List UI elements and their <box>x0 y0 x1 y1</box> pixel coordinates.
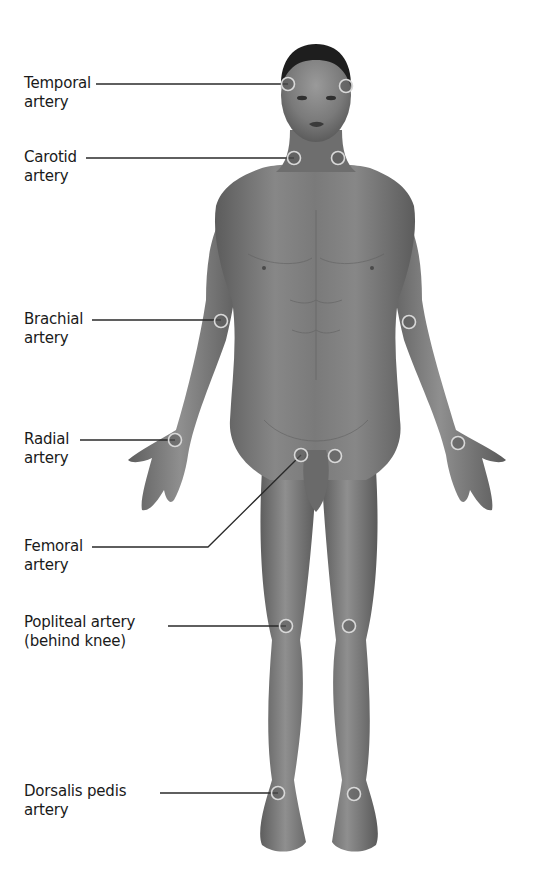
label-line: artery <box>24 801 126 820</box>
label-line: Brachial <box>24 310 83 329</box>
label-temporal-artery: Temporal artery <box>24 74 91 112</box>
pulse-point-marker-radial-right <box>169 434 182 447</box>
pulse-point-marker-femoral-left <box>329 450 342 463</box>
label-line: Popliteal artery <box>24 613 135 632</box>
pulse-point-marker-femoral-right <box>295 449 308 462</box>
label-radial-artery: Radial artery <box>24 430 69 468</box>
label-carotid-artery: Carotid artery <box>24 148 77 186</box>
label-dorsalis-pedis-artery: Dorsalis pedis artery <box>24 782 126 820</box>
label-popliteal-artery: Popliteal artery (behind knee) <box>24 613 135 651</box>
label-line: artery <box>24 449 69 468</box>
pulse-point-marker-popliteal-left <box>343 620 356 633</box>
head <box>281 44 351 142</box>
label-line: Temporal <box>24 74 91 93</box>
pulse-point-marker-temporal-right <box>282 78 295 91</box>
label-femoral-artery: Femoral artery <box>24 537 83 575</box>
pulse-point-marker-brachial-left <box>403 316 416 329</box>
pulse-point-marker-temporal-left <box>340 80 353 93</box>
label-line: Carotid <box>24 148 77 167</box>
label-brachial-artery: Brachial artery <box>24 310 83 348</box>
pulse-point-marker-carotid-left <box>332 152 345 165</box>
label-line: artery <box>24 93 91 112</box>
human-body-figure <box>0 0 540 888</box>
pulse-point-marker-brachial-right <box>215 315 228 328</box>
label-line: Femoral <box>24 537 83 556</box>
pulse-point-marker-dorsalis-pedis-right <box>272 787 285 800</box>
label-line: Radial <box>24 430 69 449</box>
pulse-point-marker-carotid-right <box>288 152 301 165</box>
torso <box>215 164 415 481</box>
pulse-point-marker-dorsalis-pedis-left <box>348 788 361 801</box>
label-line: artery <box>24 167 77 186</box>
label-line: (behind knee) <box>24 632 135 651</box>
label-line: artery <box>24 556 83 575</box>
label-line: Dorsalis pedis <box>24 782 126 801</box>
pulse-point-marker-popliteal-right <box>280 620 293 633</box>
pulse-points-diagram: Temporal artery Carotid artery Brachial … <box>0 0 540 888</box>
pulse-point-marker-radial-left <box>452 437 465 450</box>
label-line: artery <box>24 329 83 348</box>
